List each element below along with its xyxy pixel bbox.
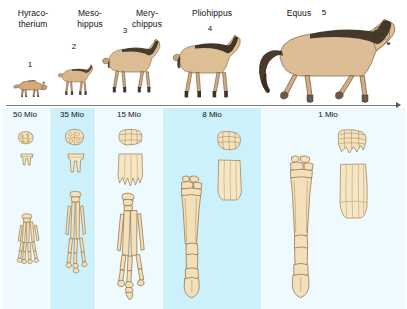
genus-label-mesohippus: Meso- hippus [64, 8, 116, 29]
foot-bones-pliohippus [174, 174, 210, 300]
molar-profile-merychippus [116, 152, 146, 190]
age-label-1-mio: 1 Mio [309, 110, 347, 119]
age-label-35-mio: 35 Mio [52, 110, 92, 119]
animal-silhouette-pliohippus [172, 34, 244, 104]
molar-crown-mesohippus [63, 128, 87, 149]
genus-label-line: therium [2, 19, 64, 30]
animal-silhouette-mesohippus [57, 60, 95, 98]
foot-bones-equus [283, 154, 323, 302]
genus-label-pliohippus: Pliohippus [174, 8, 250, 19]
animal-silhouette-equus [255, 20, 405, 106]
index-number-5: 5 [318, 8, 330, 17]
animal-silhouette-hyracotherium [12, 74, 48, 100]
age-label-15-mio: 15 Mio [109, 110, 149, 119]
time-axis-arrowhead [396, 102, 401, 108]
genus-label-line: Pliohippus [174, 8, 250, 19]
genus-label-line: Equus [274, 8, 324, 19]
horse-evolution-figure: Hyraco- therium Meso- hippus Mery- chipp… [0, 0, 407, 309]
age-label-8-mio: 8 Mio [193, 110, 231, 119]
genus-label-hyracotherium: Hyraco- therium [2, 8, 64, 29]
foot-bones-mesohippus [61, 190, 91, 274]
genus-label-equus: Equus [274, 8, 324, 19]
age-label-50-mio: 50 Mio [5, 110, 45, 119]
molar-crown-pliohippus [215, 130, 243, 152]
genus-label-line: Hyraco- [2, 8, 64, 19]
animal-silhouette-merychippus [101, 36, 163, 98]
molar-profile-equus [337, 162, 371, 220]
index-number-2: 2 [68, 42, 80, 51]
molar-crown-merychippus [117, 128, 145, 148]
genus-label-line: hippus [64, 19, 116, 30]
genus-label-line: Meso- [64, 8, 116, 19]
molar-crown-equus [335, 128, 369, 156]
time-axis-line [6, 105, 399, 106]
index-number-1: 1 [24, 60, 36, 69]
molar-profile-mesohippus [66, 152, 86, 174]
index-number-4: 4 [204, 24, 216, 33]
genus-label-line: Mery- [118, 8, 176, 19]
foot-bones-merychippus [110, 192, 152, 302]
index-number-3: 3 [119, 26, 131, 35]
molar-profile-pliohippus [215, 158, 245, 202]
molar-crown-hyracotherium [16, 130, 36, 148]
foot-bones-hyracotherium [14, 213, 42, 269]
molar-profile-hyracotherium [19, 152, 35, 167]
